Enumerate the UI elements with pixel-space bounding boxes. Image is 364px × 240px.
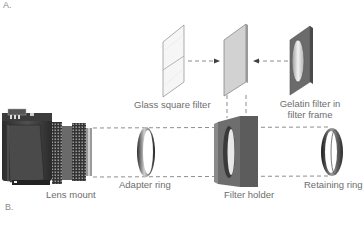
label-glass-square-filter: Glass square filter bbox=[134, 99, 211, 110]
retaining-ring bbox=[321, 128, 343, 176]
label-lens-mount: Lens mount bbox=[46, 189, 96, 200]
label-gelatin-filter-line2: filter frame bbox=[270, 109, 350, 120]
camera-body bbox=[2, 109, 52, 185]
adapter-ring bbox=[137, 127, 155, 177]
arrow-head-right bbox=[214, 59, 220, 64]
label-adapter-ring: Adapter ring bbox=[119, 179, 171, 190]
label-gelatin-filter-line1: Gelatin filter in bbox=[270, 98, 350, 109]
label-filter-holder: Filter holder bbox=[224, 189, 274, 200]
glass-square-filter bbox=[163, 25, 184, 97]
filter-holder bbox=[214, 116, 258, 187]
label-gelatin-filter: Gelatin filter in filter frame bbox=[270, 98, 350, 120]
label-retaining-ring: Retaining ring bbox=[304, 179, 363, 190]
square-filter-center bbox=[224, 24, 248, 96]
lens-mount bbox=[52, 122, 92, 184]
gelatin-filter-frame bbox=[290, 26, 313, 95]
arrow-head-left bbox=[253, 59, 259, 64]
